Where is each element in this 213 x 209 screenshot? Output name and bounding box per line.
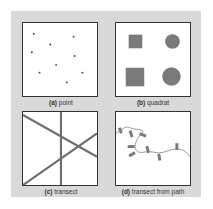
- label-point: (a) point: [16, 99, 106, 107]
- label-quadrat: (b) quadrat: [108, 99, 198, 107]
- panel-transect-from-path: [115, 111, 191, 186]
- point-sampling-diagram: [23, 23, 97, 96]
- transect-sampling-diagram: [23, 112, 97, 185]
- panel-point: [22, 22, 98, 97]
- quadrat-sampling-diagram: [116, 23, 190, 96]
- label-transect-from-path: (d) transect from path: [108, 188, 198, 196]
- label-transect: (c) transect: [16, 188, 106, 196]
- panel-transect: [22, 111, 98, 186]
- transect-from-path-diagram: [116, 112, 190, 185]
- panel-quadrat: [115, 22, 191, 97]
